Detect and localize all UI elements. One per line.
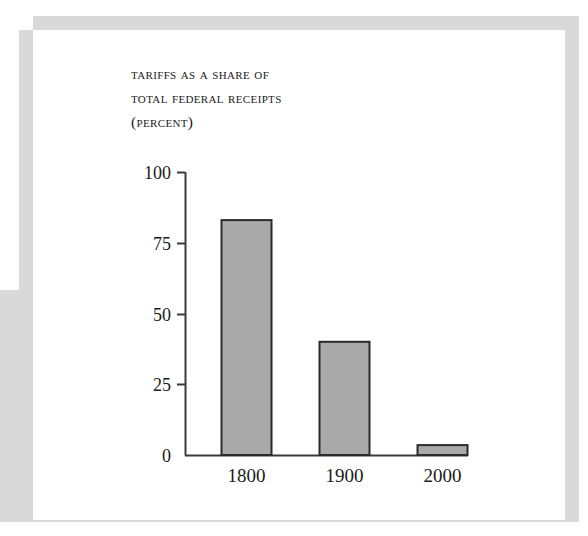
y-axis-tick-labels: 100 75 50 25 0 <box>144 163 171 466</box>
page-margin-right <box>565 16 579 522</box>
y-axis-ticks <box>177 173 185 385</box>
bar-1800 <box>222 220 272 455</box>
y-tick-label-100: 100 <box>144 163 171 183</box>
figure-page: Tariffs as a share of total federal rece… <box>0 0 588 536</box>
y-tick-label-0: 0 <box>162 446 171 466</box>
page-margin-top <box>33 16 571 30</box>
figure-card: Tariffs as a share of total federal rece… <box>33 30 565 520</box>
page-margin-left-lower <box>0 290 33 522</box>
x-label-1900: 1900 <box>326 465 364 486</box>
x-label-2000: 2000 <box>424 465 462 486</box>
page-margin-left-upper <box>19 30 33 290</box>
y-tick-label-50: 50 <box>153 305 171 325</box>
bar-1900 <box>320 342 370 455</box>
x-label-1800: 1800 <box>228 465 266 486</box>
y-tick-label-25: 25 <box>153 375 171 395</box>
bar-series <box>222 220 468 455</box>
bar-2000 <box>418 445 468 455</box>
x-axis-category-labels: 1800 1900 2000 <box>228 465 462 486</box>
y-tick-label-75: 75 <box>153 234 171 254</box>
bar-chart-plot: 100 75 50 25 0 1800 1900 2000 <box>33 30 565 520</box>
